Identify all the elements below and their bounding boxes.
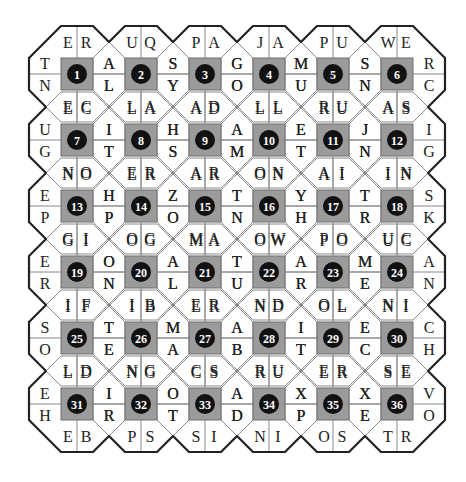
letter-left[interactable]: E	[360, 407, 370, 424]
letter-left[interactable]: A	[231, 385, 243, 402]
letter-top[interactable]: U	[336, 34, 348, 51]
letter-top[interactable]: N	[382, 298, 394, 315]
letter-top[interactable]: I	[129, 298, 134, 315]
letter-bottom[interactable]: S	[146, 428, 155, 445]
letter-top[interactable]: E	[63, 34, 73, 51]
letter-left[interactable]: B	[232, 341, 243, 358]
letter-right[interactable]: N	[423, 275, 435, 292]
letter-top[interactable]: O	[318, 298, 330, 315]
letter-top[interactable]: F	[82, 298, 91, 315]
letter-top[interactable]: P	[320, 232, 329, 249]
letter-top[interactable]: A	[382, 100, 394, 117]
letter-top[interactable]: A	[190, 166, 202, 183]
letter-top[interactable]: O	[80, 166, 92, 183]
letter-top[interactable]: D	[80, 364, 92, 381]
letter-left[interactable]: T	[232, 253, 242, 270]
letter-top[interactable]: I	[65, 298, 70, 315]
letter-top[interactable]: D	[208, 100, 220, 117]
letter-right[interactable]: S	[425, 187, 434, 204]
letter-top[interactable]: I	[403, 298, 408, 315]
letter-top[interactable]: G	[62, 232, 74, 249]
letter-bottom[interactable]: E	[63, 428, 73, 445]
letter-left[interactable]: O	[39, 341, 51, 358]
letter-top[interactable]: G	[144, 232, 156, 249]
letter-left[interactable]: H	[103, 187, 115, 204]
letter-left[interactable]: T	[360, 187, 370, 204]
letter-left[interactable]: R	[360, 209, 371, 226]
letter-top[interactable]: R	[319, 100, 330, 117]
letter-top[interactable]: E	[401, 34, 411, 51]
letter-left[interactable]: E	[40, 187, 50, 204]
letter-top[interactable]: J	[257, 34, 263, 51]
letter-left[interactable]: T	[168, 407, 178, 424]
letter-left[interactable]: S	[169, 55, 178, 72]
letter-bottom[interactable]: R	[401, 428, 412, 445]
letter-top[interactable]: L	[127, 100, 137, 117]
letter-left[interactable]: O	[103, 253, 115, 270]
letter-left[interactable]: A	[167, 253, 179, 270]
letter-top[interactable]: Q	[144, 34, 156, 51]
letter-top[interactable]: U	[382, 232, 394, 249]
letter-top[interactable]: E	[319, 364, 329, 381]
letter-top[interactable]: W	[380, 34, 396, 51]
letter-top[interactable]: C	[81, 100, 92, 117]
letter-bottom[interactable]: T	[383, 428, 393, 445]
letter-bottom[interactable]: S	[192, 428, 201, 445]
letter-top[interactable]: A	[144, 100, 156, 117]
letter-top[interactable]: I	[385, 166, 390, 183]
letter-left[interactable]: P	[297, 407, 306, 424]
letter-left[interactable]: T	[232, 187, 242, 204]
letter-left[interactable]: J	[362, 121, 368, 138]
letter-top[interactable]: R	[209, 298, 220, 315]
letter-left[interactable]: Y	[295, 187, 307, 204]
letter-top[interactable]: C	[401, 232, 412, 249]
letter-left[interactable]: R	[104, 407, 115, 424]
letter-top[interactable]: N	[400, 166, 412, 183]
letter-top[interactable]: L	[273, 100, 283, 117]
letter-left[interactable]: H	[39, 407, 51, 424]
letter-left[interactable]: U	[39, 121, 51, 138]
letter-left[interactable]: O	[231, 77, 243, 94]
letter-bottom[interactable]: I	[275, 428, 280, 445]
letter-top[interactable]: R	[255, 364, 266, 381]
letter-left[interactable]: Z	[168, 187, 178, 204]
letter-top[interactable]: W	[270, 232, 286, 249]
letter-top[interactable]: C	[191, 364, 202, 381]
letter-left[interactable]: S	[361, 55, 370, 72]
letter-top[interactable]: A	[318, 166, 330, 183]
letter-left[interactable]: L	[104, 77, 114, 94]
letter-top[interactable]: I	[83, 232, 88, 249]
letter-left[interactable]: N	[359, 77, 371, 94]
letter-left[interactable]: A	[231, 121, 243, 138]
letter-top[interactable]: A	[208, 34, 220, 51]
letter-top[interactable]: A	[272, 34, 284, 51]
letter-top[interactable]: O	[126, 232, 138, 249]
letter-top[interactable]: A	[190, 100, 202, 117]
letter-top[interactable]: R	[145, 166, 156, 183]
letter-top[interactable]: U	[336, 100, 348, 117]
letter-left[interactable]: T	[104, 319, 114, 336]
letter-top[interactable]: U	[126, 34, 138, 51]
letter-top[interactable]: N	[272, 166, 284, 183]
letter-left[interactable]: R	[296, 275, 307, 292]
letter-left[interactable]: U	[295, 77, 307, 94]
letter-right[interactable]: I	[426, 121, 431, 138]
letter-top[interactable]: E	[127, 166, 137, 183]
letter-right[interactable]: H	[423, 341, 435, 358]
letter-bottom[interactable]: N	[254, 428, 266, 445]
letter-left[interactable]: T	[104, 143, 114, 160]
letter-top[interactable]: R	[209, 166, 220, 183]
letter-left[interactable]: T	[296, 143, 306, 160]
letter-left[interactable]: X	[295, 385, 307, 402]
letter-left[interactable]: E	[40, 385, 50, 402]
letter-top[interactable]: N	[254, 298, 266, 315]
letter-top[interactable]: B	[145, 298, 156, 315]
letter-top[interactable]: M	[189, 232, 203, 249]
letter-top[interactable]: E	[191, 298, 201, 315]
letter-left[interactable]: E	[296, 121, 306, 138]
letter-left[interactable]: O	[167, 385, 179, 402]
letter-left[interactable]: S	[41, 319, 50, 336]
letter-left[interactable]: M	[294, 55, 308, 72]
letter-left[interactable]: L	[168, 275, 178, 292]
letter-right[interactable]: R	[424, 55, 435, 72]
